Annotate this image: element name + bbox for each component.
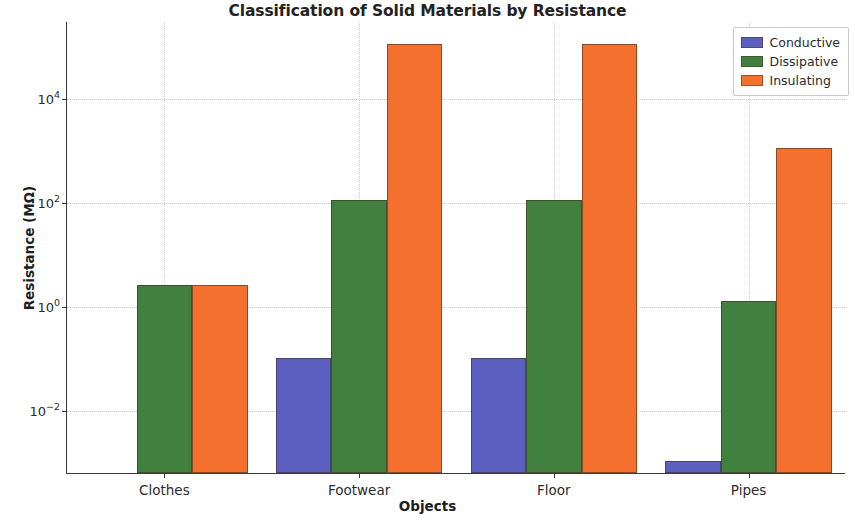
x-tick-mark	[554, 473, 555, 478]
y-tick-mark	[62, 203, 67, 204]
legend-label-dissipative: Dissipative	[770, 54, 839, 69]
x-tick-mark	[749, 473, 750, 478]
x-tick-mark	[359, 473, 360, 478]
legend-swatch-insulating	[741, 75, 763, 86]
bar-floor-dissipative	[526, 200, 582, 473]
y-tick-mark	[62, 411, 67, 412]
bar-floor-conductive	[471, 358, 527, 473]
legend-label-conductive: Conductive	[770, 35, 841, 50]
bar-floor-insulating	[582, 44, 638, 473]
x-tick-mark	[164, 473, 165, 478]
bar-footwear-dissipative	[331, 200, 387, 473]
legend-swatch-dissipative	[741, 56, 763, 67]
y-tick-mark	[62, 99, 67, 100]
plot-area: 10−2100102104 ClothesFootwearFloorPipes …	[66, 22, 845, 474]
y-axis-label: Resistance (MΩ)	[21, 185, 37, 310]
bar-footwear-insulating	[387, 44, 443, 473]
legend-item-insulating: Insulating	[741, 71, 841, 90]
bar-clothes-insulating	[192, 285, 248, 473]
legend-item-conductive: Conductive	[741, 33, 841, 52]
legend-item-dissipative: Dissipative	[741, 52, 841, 71]
x-tick-label-clothes: Clothes	[139, 482, 190, 498]
y-tick-label: 104	[37, 91, 60, 106]
legend-label-insulating: Insulating	[770, 73, 831, 88]
legend: ConductiveDissipativeInsulating	[733, 27, 850, 96]
bar-pipes-dissipative	[721, 301, 777, 473]
bar-footwear-conductive	[276, 358, 332, 473]
x-tick-label-floor: Floor	[537, 482, 571, 498]
bar-clothes-dissipative	[137, 285, 193, 473]
gridline-horizontal	[67, 99, 845, 100]
legend-swatch-conductive	[741, 37, 763, 48]
y-tick-label: 100	[37, 299, 60, 314]
x-tick-label-pipes: Pipes	[731, 482, 767, 498]
bar-pipes-insulating	[776, 148, 832, 473]
x-tick-label-footwear: Footwear	[328, 482, 390, 498]
y-tick-label: 10−2	[29, 403, 60, 418]
bar-pipes-conductive	[665, 461, 721, 473]
gridline-horizontal	[67, 203, 845, 204]
y-tick-label: 102	[37, 195, 60, 210]
chart-title: Classification of Solid Materials by Res…	[0, 2, 855, 20]
x-axis-label: Objects	[0, 498, 855, 514]
y-tick-mark	[62, 307, 67, 308]
chart-container: Classification of Solid Materials by Res…	[0, 0, 855, 523]
